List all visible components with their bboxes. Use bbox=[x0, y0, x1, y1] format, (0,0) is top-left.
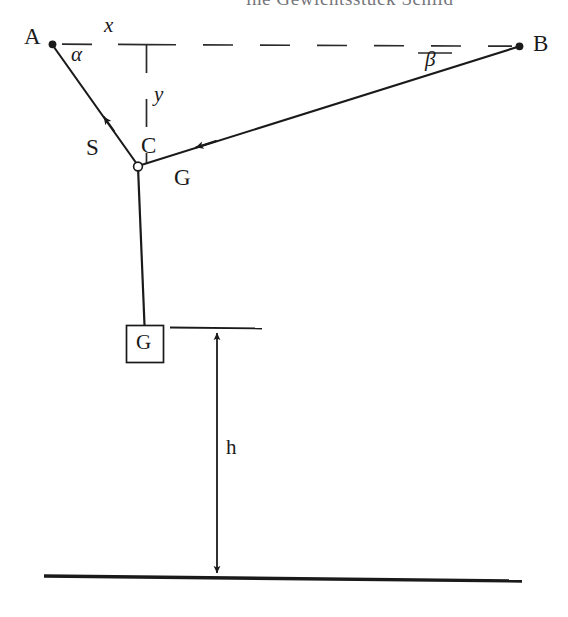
label-height-h: h bbox=[226, 437, 237, 458]
label-point-a: A bbox=[24, 25, 41, 48]
label-point-b: B bbox=[533, 32, 548, 55]
label-axis-y: y bbox=[154, 84, 163, 105]
label-force-g: G bbox=[174, 166, 191, 189]
point-marker-c-ring bbox=[134, 162, 143, 171]
cable-segment-CB bbox=[138, 47, 519, 167]
label-weight-box-g: G bbox=[136, 332, 151, 353]
axis-x-dashed-line bbox=[62, 44, 512, 46]
label-angle-beta: β bbox=[425, 49, 435, 70]
statics-diagram-canvas bbox=[0, 0, 568, 617]
point-marker-b bbox=[516, 42, 524, 50]
label-point-c: C bbox=[141, 134, 156, 157]
label-force-s: S bbox=[86, 136, 99, 159]
label-axis-x: x bbox=[104, 15, 113, 36]
figure-root: ine Gewichtsstück Schild bbox=[0, 0, 568, 617]
ground-line bbox=[44, 576, 522, 581]
label-angle-alpha: α bbox=[71, 44, 82, 65]
rope-to-weight bbox=[138, 167, 145, 325]
point-marker-a bbox=[49, 40, 57, 48]
dimension-top-tick bbox=[170, 328, 262, 329]
